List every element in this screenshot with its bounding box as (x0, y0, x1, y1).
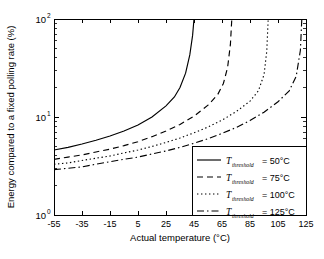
x-tick-label: 125 (298, 219, 313, 229)
y-tick-label-base: 10 (35, 14, 46, 25)
x-tick-label: 5 (135, 219, 140, 229)
y-axis-title: Energy compared to a fixed polling rate … (5, 26, 16, 209)
legend-value: = 75°C (262, 173, 290, 183)
legend-subscript: threshold (232, 213, 254, 219)
x-tick-label: 105 (270, 219, 285, 229)
chart-svg: -55-35-15525456585105125 100101102 Actua… (0, 0, 324, 259)
y-tick-label-exponent: 2 (47, 12, 51, 19)
x-tick-label: -35 (75, 219, 88, 229)
legend-subscript: threshold (232, 162, 254, 168)
chart-legend[interactable]: Tthreshold= 50°CTthreshold= 75°CTthresho… (192, 146, 306, 219)
x-axis-title: Actual temperature (°C) (130, 232, 230, 243)
y-tick-label-base: 10 (35, 112, 46, 123)
x-tick-label: 85 (245, 219, 255, 229)
legend-value: = 50°C (262, 156, 290, 166)
x-tick-label: 65 (217, 219, 227, 229)
x-tick-label: 45 (189, 219, 199, 229)
x-tick-label: -15 (103, 219, 116, 229)
x-tick-label: -55 (47, 219, 60, 229)
y-tick-label-exponent: 0 (47, 208, 51, 215)
legend-value: = 125°C (262, 207, 295, 217)
y-tick-label-exponent: 1 (47, 110, 51, 117)
x-tick-labels: -55-35-15525456585105125 (47, 219, 313, 229)
chart-figure: -55-35-15525456585105125 100101102 Actua… (0, 0, 324, 259)
x-tick-label: 25 (161, 219, 171, 229)
y-tick-label-base: 10 (35, 210, 46, 221)
legend-value: = 100°C (262, 190, 295, 200)
legend-subscript: threshold (232, 179, 254, 185)
legend-subscript: threshold (232, 196, 254, 202)
y-tick-labels: 100101102 (35, 12, 51, 221)
